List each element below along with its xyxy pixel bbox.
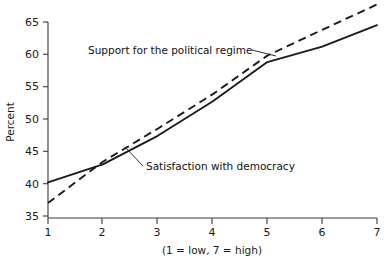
y-tick-label: 45 — [25, 145, 39, 158]
y-axis-ticks — [43, 22, 48, 216]
x-tick-label: 6 — [319, 226, 326, 239]
y-tick-label: 50 — [25, 113, 39, 126]
annotation-satisfaction-with-democracy: Satisfaction with democracy — [126, 148, 295, 172]
x-tick-label: 1 — [45, 226, 52, 239]
series-line-support-for-the-political-regime — [48, 5, 377, 204]
annotation-label: Satisfaction with democracy — [146, 160, 295, 172]
y-axis-tick-labels: 65 60 55 50 45 40 35 — [25, 16, 39, 223]
line-chart-canvas: 65 60 55 50 45 40 35 1 2 3 4 5 6 7 — [0, 0, 385, 262]
y-tick-label: 60 — [25, 48, 39, 61]
y-tick-label: 40 — [25, 178, 39, 191]
x-tick-label: 5 — [264, 226, 271, 239]
x-tick-label: 7 — [374, 226, 381, 239]
annotation-support-for-the-political-regime: Support for the political regime — [88, 44, 276, 56]
y-tick-label: 55 — [25, 80, 39, 93]
y-axis-title: Percent — [4, 102, 16, 142]
y-tick-label: 35 — [25, 210, 39, 223]
x-tick-label: 4 — [209, 226, 216, 239]
x-tick-label: 2 — [99, 226, 106, 239]
y-tick-label: 65 — [25, 16, 39, 29]
x-axis-title: (1 = low, 7 = high) — [162, 244, 262, 256]
annotation-label: Support for the political regime — [88, 44, 252, 56]
chart-figure: 65 60 55 50 45 40 35 1 2 3 4 5 6 7 — [0, 0, 385, 262]
x-axis-tick-labels: 1 2 3 4 5 6 7 — [45, 226, 381, 239]
x-axis-ticks — [48, 218, 377, 224]
x-tick-label: 3 — [154, 226, 161, 239]
